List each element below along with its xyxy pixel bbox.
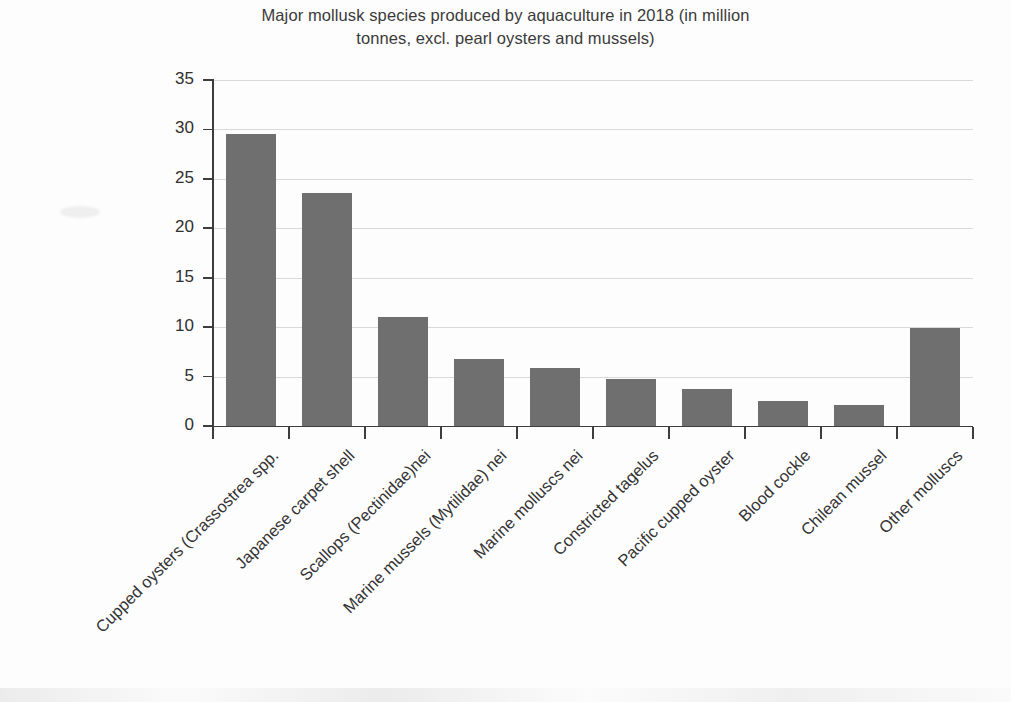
- bar[interactable]: [302, 193, 352, 426]
- x-axis-tick: [744, 427, 746, 439]
- x-axis-tick: [592, 427, 594, 439]
- x-axis-tick: [440, 427, 442, 439]
- x-axis-tick: [212, 427, 214, 439]
- x-axis-tick-label: Marine mussels (Mytilidae) nei: [339, 446, 510, 617]
- y-axis-tick-label: 35: [150, 69, 194, 89]
- y-axis-tick: [203, 277, 213, 279]
- gridline: [213, 179, 973, 180]
- x-axis-tick: [364, 427, 366, 439]
- bar[interactable]: [758, 401, 808, 426]
- x-axis-tick-label: Blood cockle: [735, 446, 815, 526]
- y-axis-tick-label: 10: [150, 316, 194, 336]
- y-axis-tick: [203, 376, 213, 378]
- bar[interactable]: [682, 389, 732, 426]
- y-axis-tick-label: 20: [150, 217, 194, 237]
- x-axis-tick: [516, 427, 518, 439]
- x-axis-tick: [820, 427, 822, 439]
- x-axis-tick: [972, 427, 974, 439]
- y-axis-tick: [203, 79, 213, 81]
- scan-artifact-spot: [60, 206, 100, 218]
- x-axis-tick: [896, 427, 898, 439]
- x-axis-tick: [288, 427, 290, 439]
- y-axis-tick-labels: 05101520253035: [150, 0, 194, 702]
- y-axis-tick: [203, 129, 213, 131]
- y-axis-tick-label: 25: [150, 168, 194, 188]
- gridline: [213, 80, 973, 81]
- bar[interactable]: [226, 134, 276, 426]
- bar[interactable]: [834, 405, 884, 426]
- bar[interactable]: [378, 317, 428, 426]
- x-axis-tick-label: Scallops (Pectinidae)nei: [296, 446, 435, 585]
- bar[interactable]: [910, 328, 960, 426]
- y-axis-tick: [203, 326, 213, 328]
- y-axis-tick-label: 15: [150, 267, 194, 287]
- y-axis-tick-label: 30: [150, 118, 194, 138]
- y-axis-tick: [203, 227, 213, 229]
- y-axis-tick: [203, 178, 213, 180]
- y-axis-tick-label: 0: [150, 415, 194, 435]
- chart-page: Major mollusk species produced by aquacu…: [0, 0, 1011, 702]
- bar[interactable]: [454, 359, 504, 426]
- bar[interactable]: [530, 368, 580, 426]
- x-axis-tick: [668, 427, 670, 439]
- scan-artifact-bottom: [0, 688, 1011, 702]
- bar[interactable]: [606, 379, 656, 426]
- y-axis-tick-label: 5: [150, 366, 194, 386]
- gridline: [213, 129, 973, 130]
